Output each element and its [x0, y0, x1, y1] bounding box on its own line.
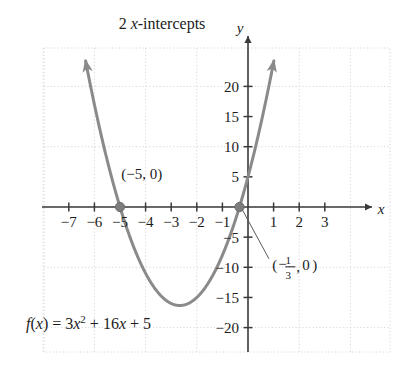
parabola-curve [86, 61, 274, 305]
y-tick-label: −5 [223, 230, 239, 246]
eq-plus-1: + [86, 315, 103, 332]
root-x-value: −5 [126, 166, 142, 182]
y-tick-label: 5 [232, 169, 240, 185]
title-variable: x [130, 15, 138, 32]
x-axis-label: x [377, 201, 385, 217]
root-y-value: 0 [150, 166, 158, 182]
eq-equals: = [48, 315, 65, 332]
eq-var-x: x [72, 315, 80, 332]
eq-const-c: 5 [143, 315, 151, 332]
eq-var-x2: x [118, 315, 126, 332]
y-tick-label: −15 [216, 290, 239, 306]
function-equation: f(x) = 3x2 + 16x + 5 [26, 313, 151, 333]
quadratic-graph-figure: −7−6−5−4−3−2−1123−20−15−10−55101520 2 x-… [0, 0, 401, 387]
root-right-label: ( − 1 3 , 0 ) [272, 254, 317, 281]
curve-arrowheads [80, 58, 279, 73]
y-tick-label: 10 [224, 139, 239, 155]
intercept-point [115, 202, 124, 211]
y-axis-label: y [235, 20, 244, 36]
leader-line [242, 210, 269, 259]
title-prefix: 2 [119, 15, 131, 32]
paren-open: ( [272, 257, 277, 274]
x-tick-label: 1 [270, 214, 278, 230]
x-tick-label: −6 [86, 214, 102, 230]
root-y-value: 0 [302, 257, 310, 273]
eq-plus-2: + [126, 315, 143, 332]
x-tick-label: −2 [189, 214, 205, 230]
y-tick-label: 15 [224, 109, 239, 125]
y-tick-label: −10 [216, 260, 239, 276]
x-tick-label: −1 [214, 214, 230, 230]
y-tick-label: 20 [224, 79, 239, 95]
y-tick-label: −20 [216, 320, 239, 336]
root-left-label: (−5, 0) [121, 166, 162, 183]
grid-lines [43, 48, 390, 352]
x-tick-label: −3 [163, 214, 179, 230]
paren-close: ) [157, 166, 162, 183]
comma: , [142, 166, 150, 182]
graph-canvas: −7−6−5−4−3−2−1123−20−15−10−55101520 2 x-… [0, 0, 401, 387]
x-tick-label: 2 [295, 214, 303, 230]
fraction-denominator: 3 [286, 269, 292, 281]
x-tick-label: −5 [112, 214, 128, 230]
eq-var: x [35, 315, 43, 332]
title-suffix: -intercepts [138, 15, 206, 33]
comma: , [296, 259, 300, 275]
eq-coef-a: 3 [65, 315, 73, 332]
paren-close: ) [312, 257, 317, 274]
x-tick-label: 3 [321, 214, 329, 230]
chart-title: 2 x-intercepts [119, 15, 206, 33]
fraction-numerator: 1 [286, 254, 292, 266]
eq-coef-b: 16 [103, 315, 119, 332]
x-tick-label: −4 [138, 214, 154, 230]
x-tick-label: −7 [61, 214, 77, 230]
